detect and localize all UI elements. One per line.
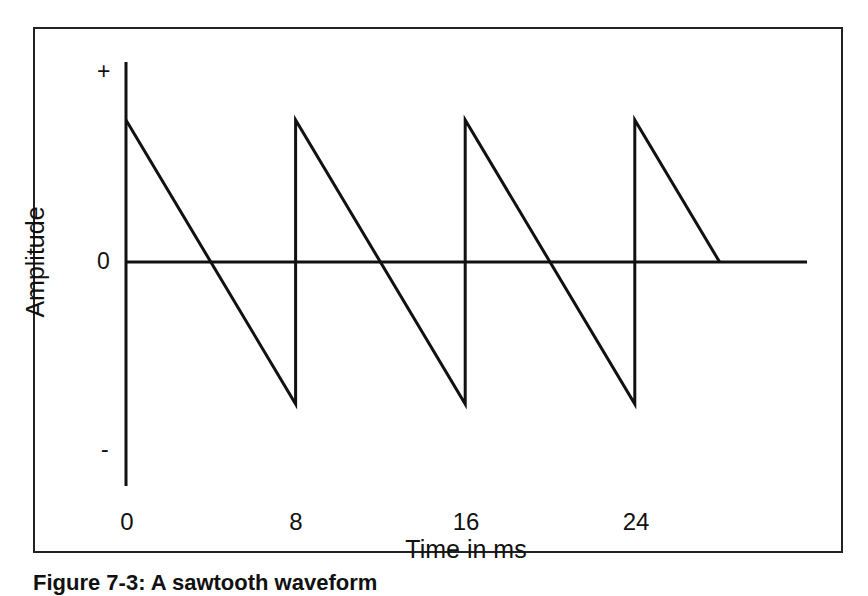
x-tick-8: 8	[289, 508, 302, 536]
y-tick-zero: 0	[97, 250, 110, 273]
x-axis-title: Time in ms	[405, 535, 526, 564]
y-tick-minus: -	[101, 438, 109, 461]
figure-caption: Figure 7-3: A sawtooth waveform	[33, 570, 377, 596]
y-tick-plus: +	[97, 60, 110, 83]
x-tick-0: 0	[120, 508, 133, 536]
y-axis-title: Amplitude	[21, 206, 50, 317]
x-tick-24: 24	[623, 508, 650, 536]
x-tick-16: 16	[453, 508, 480, 536]
